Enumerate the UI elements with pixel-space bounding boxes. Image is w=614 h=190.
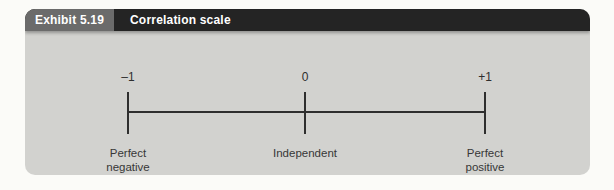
exhibit-number-label: Exhibit 5.19 xyxy=(25,9,114,31)
tick-mark xyxy=(484,92,486,134)
tick-value-positive-one: +1 xyxy=(478,70,492,84)
exhibit-title: Correlation scale xyxy=(114,9,590,31)
correlation-scale-diagram: –1 Perfect negative correlation 0 Indepe… xyxy=(25,31,590,175)
exhibit-header: Exhibit 5.19 Correlation scale xyxy=(25,9,590,31)
tick-value-zero: 0 xyxy=(302,70,309,84)
tick-mark xyxy=(127,92,129,134)
tick-label-perfect-positive: Perfect positive correlation xyxy=(420,147,550,175)
scale-axis-line xyxy=(128,111,486,113)
tick-mark xyxy=(304,92,306,134)
tick-label-independent: Independent xyxy=(240,147,370,161)
tick-label-perfect-negative: Perfect negative correlation xyxy=(63,147,193,175)
page: Exhibit 5.19 Correlation scale –1 Perfec… xyxy=(0,0,614,190)
exhibit-panel: Exhibit 5.19 Correlation scale –1 Perfec… xyxy=(25,9,590,175)
tick-value-negative-one: –1 xyxy=(121,70,134,84)
